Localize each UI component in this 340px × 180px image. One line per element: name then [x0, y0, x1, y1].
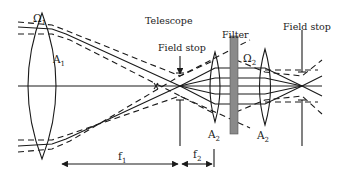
filter-label: Filter	[222, 29, 249, 40]
field-stop-1	[176, 56, 184, 146]
telescope-label: Telescope	[145, 15, 193, 26]
f2-label: f2	[193, 148, 201, 163]
filter-plate	[230, 36, 238, 134]
omega1-label: Ω1	[33, 12, 46, 27]
focal-length-dimensions	[62, 149, 214, 167]
f1-label: f1	[118, 150, 126, 165]
omega2-label: Ω2	[243, 52, 256, 67]
field-stop-2-label: Field stop	[283, 21, 331, 32]
field-lens-a2-second	[260, 49, 271, 125]
lens-a2-second-label: A2	[256, 129, 269, 144]
lens-a2-first-label: A2	[207, 128, 220, 143]
lens-a1-label: A1	[52, 53, 65, 68]
optical-telescope-diagram: Ω1 A1 Telescope Field stop Filter Ω2 Fie…	[0, 0, 340, 180]
field-stop-1-label: Field stop	[158, 42, 206, 53]
